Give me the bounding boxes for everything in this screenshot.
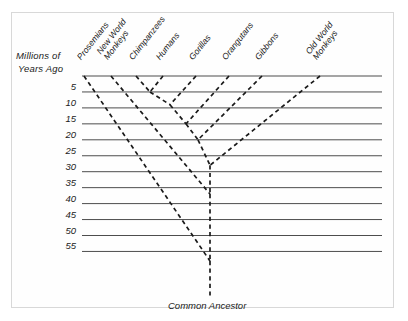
branch-Gorillas <box>170 76 196 105</box>
branch-Old World Monkeys <box>210 76 320 165</box>
gridlines <box>82 76 382 251</box>
tree-canvas <box>0 0 408 321</box>
branch-chimp-human <box>150 92 170 105</box>
common-ancestor-label: Common Ancestor <box>168 300 246 311</box>
branch-Prosemians <box>84 76 210 261</box>
branch-gibbon-clade <box>198 140 210 166</box>
branch-Chimpanzees <box>136 76 150 92</box>
phylogenetic-tree-figure: Millions of Years Ago 510152025303540455… <box>0 0 408 321</box>
branch-Orangutans <box>186 76 229 124</box>
branch-orangutan-clade <box>186 124 198 140</box>
tree-branches <box>84 76 320 297</box>
branch-Humans <box>150 76 163 92</box>
branch-New World Monkeys <box>111 76 210 194</box>
